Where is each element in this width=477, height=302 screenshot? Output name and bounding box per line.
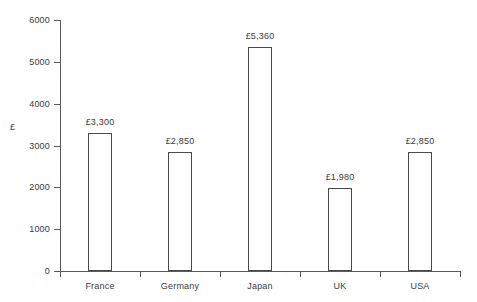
bar-japan[interactable]	[248, 47, 272, 271]
x-axis-tick	[140, 271, 141, 277]
bar-value-label-france: £3,300	[60, 117, 140, 127]
bar-value-label-uk: £1,980	[300, 172, 380, 182]
y-axis-tick-label: 6000	[6, 16, 50, 25]
x-axis-label-france: France	[60, 281, 140, 291]
y-axis-tick	[54, 187, 60, 188]
y-axis-tick	[54, 146, 60, 147]
bar-value-label-germany: £2,850	[140, 136, 220, 146]
bar-value-label-usa: £2,850	[380, 136, 460, 146]
x-axis-label-usa: USA	[380, 281, 460, 291]
y-axis-tick	[54, 62, 60, 63]
x-axis-tick	[60, 271, 61, 277]
y-axis-title: £	[10, 123, 15, 132]
y-axis-tick-label: 4000	[6, 100, 50, 109]
bar-france[interactable]	[88, 133, 112, 271]
bar-uk[interactable]	[328, 188, 352, 271]
y-axis-tick	[54, 104, 60, 105]
y-axis-tick-label: 5000	[6, 58, 50, 67]
y-axis-tick-label: 3000	[6, 142, 50, 151]
x-axis-label-uk: UK	[300, 281, 380, 291]
y-axis-line	[60, 20, 61, 272]
bar-usa[interactable]	[408, 152, 432, 271]
y-axis-tick-label: 2000	[6, 183, 50, 192]
y-axis-tick	[54, 20, 60, 21]
y-axis-tick	[54, 229, 60, 230]
bar-germany[interactable]	[168, 152, 192, 271]
x-axis-label-japan: Japan	[220, 281, 300, 291]
bar-chart: £ 0100020003000400050006000 £3,300£2,850…	[0, 0, 477, 302]
x-axis-tick	[300, 271, 301, 277]
y-axis-tick-label: 0	[6, 267, 50, 276]
x-axis-tick	[380, 271, 381, 277]
x-axis-label-germany: Germany	[140, 281, 220, 291]
y-axis-tick-label: 1000	[6, 225, 50, 234]
x-axis-tick	[460, 271, 461, 277]
x-axis-tick	[220, 271, 221, 277]
x-axis-line	[60, 271, 460, 272]
bar-value-label-japan: £5,360	[220, 31, 300, 41]
